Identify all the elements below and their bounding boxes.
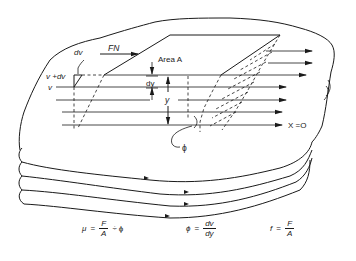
label-area: Area A [158,55,183,64]
eq3-fraction: F A [285,219,294,238]
phi-angle-arc [194,116,197,128]
eq3-denominator: A [285,229,294,238]
label-x-origin: X =O [288,121,306,130]
shear-flow-diagram: dv v +dv v FN Area A dy y X =O ϕ [0,0,356,261]
eq2-fraction: dv dy [203,219,215,238]
plate-area-a [104,35,280,75]
flow-lines [56,51,312,125]
eq2-lhs: ϕ [186,224,190,233]
eq1-lhs: μ [82,224,86,233]
label-y: y [164,95,170,105]
label-force: FN [108,43,120,53]
label-v-plus-dv: v +dv [46,72,66,81]
eq2-denominator: dy [203,229,215,238]
label-dy: dy [146,79,154,88]
equation-viscosity: μ = F A ÷ ϕ [82,219,123,238]
eq2-equals: = [194,224,199,233]
fluid-body-outline [19,18,334,150]
equation-shear-rate: ϕ = dv dy [186,219,218,238]
equation-shear-stress: f = F A [270,219,296,238]
label-dv: dv [74,48,83,57]
label-v: v [48,83,53,92]
dv-triangle [74,75,82,87]
shear-dashed-plane [200,35,280,132]
eq1-divide: ÷ [112,224,116,233]
eq1-tail: ϕ [119,224,123,233]
eq1-denominator: A [99,229,108,238]
eq1-numerator: F [99,219,108,229]
dv-leader [78,60,84,74]
eq1-equals: = [90,224,95,233]
eq3-lhs: f [270,224,272,233]
eq1-fraction: F A [99,219,108,238]
velocity-gradient-dashes [74,75,188,130]
eq3-equals: = [276,224,281,233]
stacked-layers [19,80,330,218]
eq3-numerator: F [285,219,294,229]
eq2-numerator: dv [203,219,215,229]
label-phi: ϕ [182,143,187,153]
